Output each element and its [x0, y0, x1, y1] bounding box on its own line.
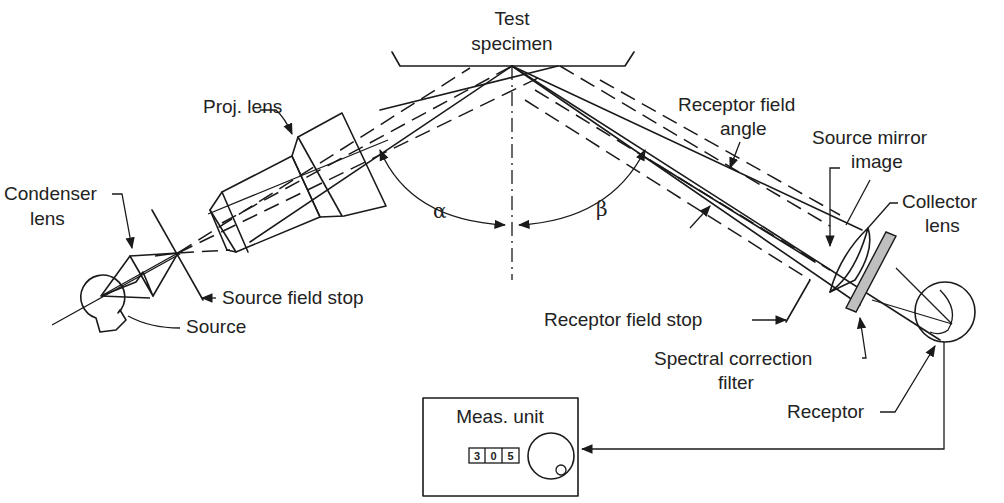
test-specimen-label-2: specimen: [471, 33, 552, 54]
receptor: [872, 268, 975, 342]
spectral-correction-filter-pointer: [860, 318, 866, 358]
receptor-label: Receptor: [787, 401, 865, 422]
readout-digit-3: 5: [507, 450, 513, 462]
measurement-unit: Meas. unit 3 0 5: [423, 398, 578, 496]
source-mirror-image-label-2: image: [851, 151, 903, 172]
meas-unit-label: Meas. unit: [456, 406, 544, 427]
receptor-field-angle-pointer-bottom: [690, 206, 710, 228]
source-lamp: [52, 254, 180, 332]
source-mirror-image-label-1: Source mirror: [812, 127, 928, 148]
collector-lens-pointer: [868, 203, 898, 228]
beta-label: β: [596, 197, 608, 221]
collector-lens-label-1: Collector: [902, 191, 978, 212]
digital-readout: 3 0 5: [469, 448, 519, 463]
receptor-field-angle-label-1: Receptor field: [678, 94, 795, 115]
source-mirror-image-pointer: [830, 168, 840, 246]
knob-indicator: [556, 465, 566, 475]
readout-digit-1: 3: [474, 450, 480, 462]
receptor-pointer: [880, 346, 935, 412]
receptor-field-angle-label-2: angle: [720, 118, 767, 139]
collector-lens-label-2: lens: [925, 215, 960, 236]
test-specimen: Test specimen: [392, 8, 634, 66]
spectral-correction-filter-label-1: Spectral correction: [654, 348, 812, 369]
receptor-field-stop: [786, 280, 810, 322]
source-field-stop-label: Source field stop: [222, 287, 364, 308]
adjustment-knob: [528, 433, 574, 479]
receptor-field-stop-label: Receptor field stop: [544, 309, 702, 330]
test-specimen-label-1: Test: [495, 8, 531, 29]
readout-digit-2: 0: [490, 450, 496, 462]
alpha-label: α: [433, 199, 447, 223]
proj-lens-label: Proj. lens: [203, 96, 282, 117]
condenser-lens-label-2: lens: [30, 208, 65, 229]
source-pointer: [128, 316, 180, 328]
optical-diagram: Test specimen Proj. lens Source field st…: [0, 0, 1004, 503]
condenser-lens-label-1: Condenser: [4, 183, 98, 204]
spectral-correction-filter-label-2: filter: [718, 372, 755, 393]
receptor-field-angle-pointer-top: [730, 142, 740, 168]
condenser-lens-pointer: [112, 194, 132, 248]
source-label: Source: [186, 316, 246, 337]
source-mirror-image-line: [846, 180, 870, 225]
